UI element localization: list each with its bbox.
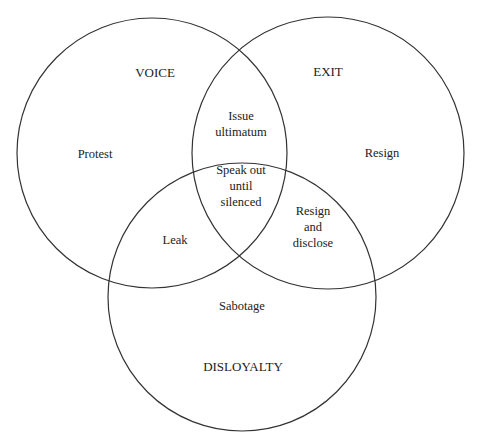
disloyalty-set-label: DISLOYALTY [203,359,283,374]
region-label-line: and [304,220,323,234]
region-label-voice-only: Protest [78,147,113,161]
exit-set-label: EXIT [313,64,343,79]
region-label-line: disclose [293,236,334,250]
region-label-line: Protest [78,147,113,161]
region-label-line: until [230,179,253,193]
region-label-disloyalty-only: Sabotage [219,299,265,313]
region-label-line: Sabotage [219,299,265,313]
region-labels: ProtestResignIssueultimatumSpeak outunti… [78,109,400,313]
region-label-line: Resign [365,146,400,160]
region-label-voice-disloyalty: Leak [163,233,189,247]
region-label-exit-disloyalty: Resignanddisclose [293,204,334,250]
region-label-voice-exit: Issueultimatum [215,109,267,139]
venn-diagram: VOICE EXIT DISLOYALTY ProtestResignIssue… [0,0,477,443]
region-label-line: silenced [221,195,263,209]
region-label-line: Leak [163,233,189,247]
voice-set-label: VOICE [135,65,175,80]
region-label-line: ultimatum [215,125,267,139]
region-label-exit-only: Resign [365,146,400,160]
region-label-voice-exit-disloyalty: Speak outuntilsilenced [216,163,266,209]
region-label-line: Speak out [216,163,266,177]
region-label-line: Resign [296,204,331,218]
region-label-line: Issue [228,109,254,123]
voice-circle [17,18,287,288]
